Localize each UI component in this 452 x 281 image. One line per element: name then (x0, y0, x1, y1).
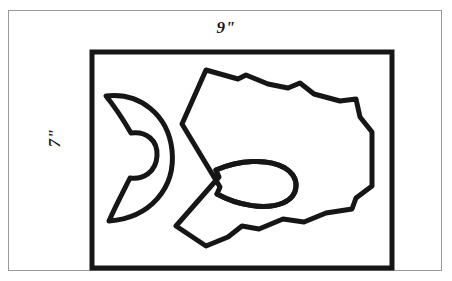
figure-page: 9" 7" (0, 0, 452, 281)
crescent-shape (106, 96, 172, 221)
arrowhead-shape (176, 70, 372, 246)
height-dimension-label: 7" (45, 129, 65, 148)
figure-canvas (0, 0, 452, 281)
width-dimension-label: 9" (0, 18, 452, 38)
oval-cavity (216, 161, 296, 206)
